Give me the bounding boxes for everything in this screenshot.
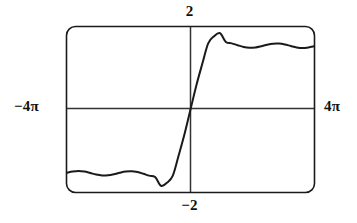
graph-plot-area [0, 0, 357, 223]
x-axis-min-label: −4π [14, 99, 39, 114]
y-axis-min-label: −2 [11, 198, 357, 213]
graph-figure: 2 −2 −4π 4π [0, 0, 357, 223]
y-axis-max-label: 2 [11, 4, 357, 19]
x-axis-max-label: 4π [324, 99, 340, 114]
